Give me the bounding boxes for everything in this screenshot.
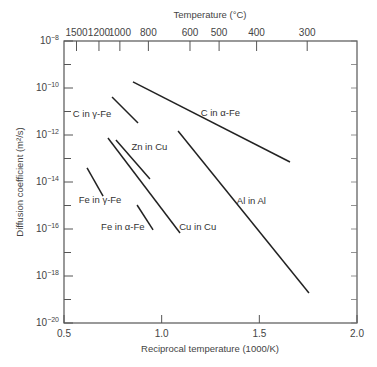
top-axis-label: Temperature (°C)	[174, 9, 247, 20]
series-line	[178, 131, 309, 293]
y-tick-label: 10−18	[36, 269, 59, 281]
top-tick-label: 500	[211, 27, 228, 38]
plot-frame	[64, 41, 357, 323]
y-axis-label: Diffusion coefficient (m²/s)	[14, 127, 25, 236]
x-tick-label: 1.0	[155, 328, 169, 339]
x-tick-label: 1.5	[252, 328, 266, 339]
series-line	[87, 168, 103, 196]
series-label: Cu in Cu	[179, 221, 216, 232]
plot-border	[64, 41, 357, 323]
top-tick-label: 1200	[88, 27, 111, 38]
y-tick-label: 10−16	[36, 222, 59, 234]
x-tick-label: 0.5	[57, 328, 71, 339]
top-tick-label: 600	[182, 27, 199, 38]
series-line	[112, 97, 138, 123]
series-c-in-γ-fe: C in γ-Fe	[73, 97, 138, 123]
series-fe-in-α-fe: Fe in α-Fe	[101, 205, 153, 232]
y-tick-label: 10−10	[36, 81, 59, 93]
series-fe-in-γ-fe: Fe in γ-Fe	[79, 168, 122, 205]
series-label: C in γ-Fe	[73, 108, 112, 119]
data-series: C in α-FeC in γ-FeZn in CuCu in CuAl in …	[73, 82, 309, 293]
top-tick-label: 800	[140, 27, 157, 38]
y-tick-label: 10−8	[40, 34, 59, 46]
top-tick-label: 300	[299, 27, 316, 38]
top-tick-label: 1500	[65, 27, 88, 38]
axis-ticks: 0.51.01.52.010−810−1010−1210−1410−1610−1…	[36, 27, 364, 339]
y-tick-label: 10−14	[36, 175, 59, 187]
series-label: Zn in Cu	[131, 141, 167, 152]
series-label: C in α-Fe	[201, 107, 240, 118]
series-label: Fe in γ-Fe	[79, 194, 122, 205]
series-line	[108, 138, 180, 233]
series-al-in-al: Al in Al	[178, 131, 309, 293]
top-tick-label: 400	[248, 27, 265, 38]
x-axis-label: Reciprocal temperature (1000/K)	[141, 343, 279, 354]
series-label: Al in Al	[237, 195, 266, 206]
series-label: Fe in α-Fe	[101, 221, 145, 232]
top-tick-label: 1000	[109, 27, 132, 38]
series-cu-in-cu: Cu in Cu	[108, 138, 216, 233]
y-tick-label: 10−20	[36, 316, 59, 328]
y-tick-label: 10−12	[36, 128, 59, 140]
x-tick-label: 2.0	[350, 328, 364, 339]
diffusion-chart: 0.51.01.52.010−810−1010−1210−1410−1610−1…	[0, 0, 377, 367]
